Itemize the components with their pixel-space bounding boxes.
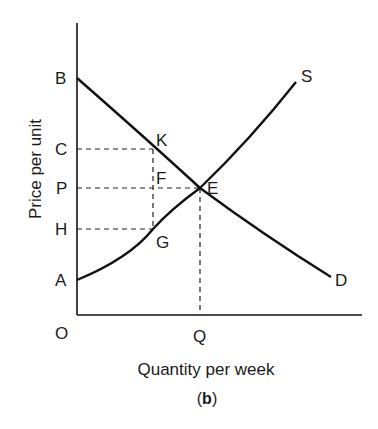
label-h: H (55, 220, 67, 239)
supply-curve (77, 82, 296, 280)
y-axis-title: Price per unit (26, 119, 45, 219)
label-demand-d: D (335, 271, 347, 290)
label-c: C (55, 140, 67, 159)
x-axis-title: Quantity per week (137, 360, 275, 379)
caption-letter: b (202, 390, 212, 407)
label-g: G (156, 233, 169, 252)
label-f: F (156, 169, 166, 188)
label-q: Q (193, 327, 206, 346)
label-p: P (56, 179, 67, 198)
label-k: K (156, 131, 168, 150)
label-a: A (55, 271, 67, 290)
caption-close: ) (212, 390, 217, 407)
label-origin: O (55, 324, 68, 343)
figure-caption: (b) (197, 390, 217, 407)
label-b: B (55, 69, 66, 88)
label-e: E (207, 179, 218, 198)
demand-curve (77, 78, 331, 277)
supply-demand-diagram: B C P H A O Q K F E G S D Price per unit… (0, 0, 378, 429)
guide-lines (77, 149, 200, 315)
label-supply-s: S (301, 67, 312, 86)
